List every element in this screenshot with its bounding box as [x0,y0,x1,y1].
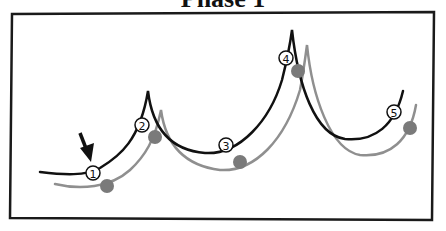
marker-5: 5 [387,105,401,120]
gray-dot [291,64,305,78]
svg-text:4: 4 [283,53,290,66]
gray-dot [100,179,114,193]
svg-text:5: 5 [391,107,398,120]
phase-diagram: 1 2 3 4 5 [0,0,446,231]
gray-dot [403,121,417,135]
marker-2: 2 [135,118,149,133]
svg-text:1: 1 [90,168,97,181]
marker-1: 1 [86,166,100,181]
gray-dot [233,155,247,169]
marker-3: 3 [219,138,233,153]
svg-text:2: 2 [139,120,146,133]
primary-curve [40,30,403,174]
svg-text:3: 3 [223,140,230,153]
marker-4: 4 [279,51,293,66]
gray-dot [148,130,162,144]
arrow-icon [80,133,94,162]
frame [10,12,434,220]
